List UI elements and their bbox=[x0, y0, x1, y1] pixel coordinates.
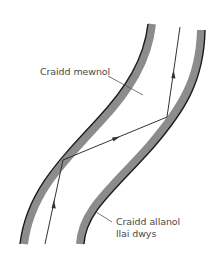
outer-cladding-label-line-2: llai dwys bbox=[116, 228, 180, 240]
ray-arrow-2-icon bbox=[112, 137, 120, 142]
outer-cladding-label-line-1: Craidd allanol bbox=[116, 216, 180, 228]
left-fibre-wall bbox=[20, 24, 152, 244]
ray-arrow-1-icon bbox=[52, 200, 56, 209]
ray-arrow-3-icon bbox=[171, 70, 175, 79]
outer-cladding-leader-line bbox=[96, 212, 112, 222]
optical-fibre-diagram bbox=[0, 0, 216, 254]
inner-core-label: Craidd mewnol bbox=[40, 66, 110, 78]
outer-cladding-label: Craidd allanol llai dwys bbox=[116, 216, 180, 240]
